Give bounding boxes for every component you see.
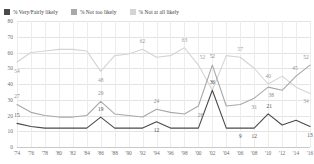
data-point-label: 15	[14, 112, 19, 118]
data-point-label: 52	[210, 53, 215, 59]
x-axis-tick-label: '88	[111, 150, 117, 156]
data-point-label: 9	[239, 133, 242, 139]
legend-swatch-icon	[4, 9, 10, 15]
x-axis-tick-label: '08	[251, 150, 257, 156]
data-point-label: 48	[98, 77, 103, 83]
data-point-label: 13	[307, 132, 312, 138]
legend-not-at-all-likely[interactable]: % Not at all likely	[130, 9, 179, 15]
data-point-label: 36	[210, 79, 215, 85]
data-point-label: 57	[238, 46, 243, 52]
x-axis-tick-label: '96	[167, 150, 173, 156]
x-axis-tick-label: '92	[139, 150, 145, 156]
x-axis-tick-label: '74	[14, 150, 20, 156]
legend-label: % Not at all likely	[139, 9, 179, 15]
legend-very-fairly-likely[interactable]: % Very/Fairly likely	[4, 9, 58, 15]
line-chart: % Very/Fairly likely% Not too likely% No…	[0, 0, 314, 164]
x-axis-tick-label: '10	[265, 150, 271, 156]
x-axis-tick-label: '80	[56, 150, 62, 156]
legend-label: % Not too likely	[80, 9, 117, 15]
data-point-label: 45	[292, 65, 297, 71]
x-axis: '74'76'78'80'82'84'86'88'90'92'94'96'98'…	[17, 150, 310, 162]
data-point-label: 38	[268, 92, 273, 98]
series-line	[17, 90, 310, 128]
x-axis-tick-label: '82	[70, 150, 76, 156]
y-axis-tick-label: 70	[1, 34, 13, 40]
x-axis-tick-label: '04	[223, 150, 229, 156]
legend-not-too-likely[interactable]: % Not too likely	[71, 9, 117, 15]
x-axis-tick-label: '84	[84, 150, 90, 156]
data-point-label: 12	[154, 127, 159, 133]
data-point-label: 29	[98, 90, 103, 96]
x-axis-tick-label: '86	[98, 150, 104, 156]
gridline-horizontal	[17, 147, 310, 148]
y-axis-tick-label: 10	[1, 128, 13, 134]
x-axis-tick-label: '90	[125, 150, 131, 156]
y-axis-tick-label: 50	[1, 65, 13, 71]
data-point-label: 19	[98, 106, 103, 112]
legend-label: % Very/Fairly likely	[13, 9, 58, 15]
x-axis-tick-label: '16	[307, 150, 313, 156]
x-axis-tick-label: '14	[293, 150, 299, 156]
y-axis-tick-label: 30	[1, 97, 13, 103]
data-point-label: 26	[198, 112, 203, 118]
gridline-vertical	[310, 21, 311, 147]
data-point-label: 34	[303, 98, 308, 104]
x-axis-tick-label: '98	[181, 150, 187, 156]
data-point-label: 52	[200, 54, 205, 60]
data-point-label: 12	[251, 133, 256, 139]
data-point-label: 40	[265, 73, 270, 79]
legend-swatch-icon	[130, 9, 136, 15]
data-point-label: 52	[303, 54, 308, 60]
x-axis-tick-label: '94	[153, 150, 159, 156]
y-axis-tick-label: 60	[1, 50, 13, 56]
data-point-label: 24	[154, 98, 159, 104]
y-axis-tick-label: 20	[1, 113, 13, 119]
x-axis-tick-label: '76	[28, 150, 34, 156]
plot-area: 5448626352574034272924265231384552151912…	[17, 21, 310, 147]
x-axis-tick-label: '78	[42, 150, 48, 156]
chart-legend: % Very/Fairly likely% Not too likely% No…	[4, 6, 192, 17]
data-point-label: 27	[14, 93, 19, 99]
series-line	[17, 48, 310, 94]
x-axis-tick-label: '02	[209, 150, 215, 156]
series-lines	[17, 21, 310, 147]
data-point-label: 63	[182, 37, 187, 43]
y-axis-tick-label: 80	[1, 18, 13, 24]
data-point-label: 21	[266, 103, 271, 109]
x-axis-tick-label: '06	[237, 150, 243, 156]
data-point-label: 62	[140, 38, 145, 44]
x-axis-tick-label: '12	[279, 150, 285, 156]
y-axis-tick-label: 0	[1, 144, 13, 150]
data-point-label: 31	[251, 104, 256, 110]
x-axis-tick-label: '00	[195, 150, 201, 156]
y-axis-tick-label: 40	[1, 81, 13, 87]
data-point-label: 54	[14, 68, 19, 74]
legend-swatch-icon	[71, 9, 77, 15]
